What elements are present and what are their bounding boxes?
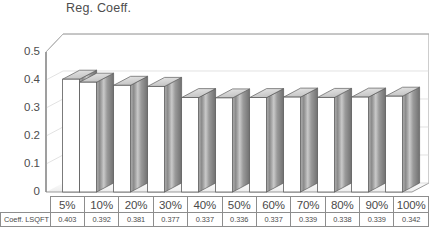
value-cell: 0.337 (256, 213, 290, 227)
y-tick-label-0-1: 0.1 (6, 157, 40, 169)
value-cell: 0.403 (50, 213, 84, 227)
category-cell: 60% (256, 197, 290, 213)
y-tick-label-0-5: 0.5 (6, 45, 40, 57)
value-cell: 0.336 (222, 213, 256, 227)
y-tick-label-0-4: 0.4 (6, 73, 40, 85)
value-cell: 0.339 (360, 213, 394, 227)
chart-data-table: 5% 10% 20% 30% 40% 50% 60% 70% 80% 90% 1… (0, 196, 429, 227)
value-cell: 0.342 (394, 213, 429, 227)
cropped-footer-text (150, 230, 350, 236)
category-cell: 40% (188, 197, 222, 213)
bar-30pct (148, 77, 182, 192)
value-cell: 0.377 (153, 213, 187, 227)
category-cell: 5% (50, 197, 84, 213)
value-cell: 0.337 (188, 213, 222, 227)
category-cell: 100% (394, 197, 429, 213)
value-cell: 0.392 (84, 213, 118, 227)
bar-10pct (80, 73, 114, 192)
category-cell: 80% (325, 197, 359, 213)
table-row-values: Coeff. LSQFT 0.403 0.392 0.381 0.377 0.3… (1, 213, 429, 227)
bar-50pct (216, 89, 250, 192)
value-cell: 0.381 (119, 213, 153, 227)
y-tick-label-0-2: 0.2 (6, 129, 40, 141)
table-corner-blank (1, 197, 51, 213)
bar-60pct (250, 89, 284, 192)
chart-plot-area (0, 0, 429, 205)
category-cell: 70% (291, 197, 325, 213)
reg-coeff-bar-chart: Reg. Coeff. (0, 0, 429, 236)
table-row-categories: 5% 10% 20% 30% 40% 50% 60% 70% 80% 90% 1… (1, 197, 429, 213)
category-cell: 50% (222, 197, 256, 213)
bar-100pct (386, 87, 420, 192)
category-cell: 10% (84, 197, 118, 213)
value-cell: 0.339 (291, 213, 325, 227)
bar-80pct (318, 88, 352, 192)
category-cell: 30% (153, 197, 187, 213)
series-label-cell: Coeff. LSQFT (1, 213, 51, 227)
category-cell: 20% (119, 197, 153, 213)
category-cell: 90% (360, 197, 394, 213)
plot-left-wall (46, 34, 63, 192)
y-tick-label-0-3: 0.3 (6, 101, 40, 113)
bar-40pct (182, 89, 216, 192)
bar-20pct (114, 76, 148, 192)
value-cell: 0.338 (325, 213, 359, 227)
bar-90pct (352, 88, 386, 192)
bar-70pct (284, 88, 318, 192)
